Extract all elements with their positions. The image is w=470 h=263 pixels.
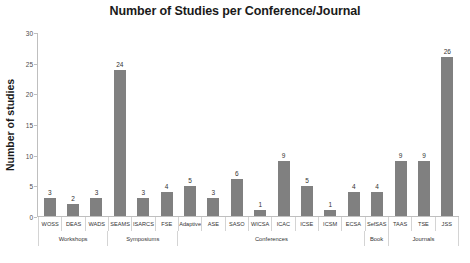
bar-value-label: 3 — [132, 189, 155, 197]
bar-series: 32324345361951449926 — [38, 33, 459, 216]
bar-slot: 4 — [365, 33, 388, 216]
bar[interactable] — [90, 198, 102, 216]
bar-value-label: 5 — [295, 177, 318, 185]
x-axis-item-label: SASO — [226, 217, 249, 231]
bar-value-label: 4 — [365, 183, 388, 191]
bar-slot: 1 — [249, 33, 272, 216]
bar-slot: 3 — [85, 33, 108, 216]
bar[interactable] — [184, 186, 196, 217]
x-axis-group-labels: WorkshopsSymposiumsConferencesBookJourna… — [38, 231, 459, 246]
x-axis-group-label: Symposiums — [108, 231, 178, 246]
bar-value-label: 4 — [342, 183, 365, 191]
bar[interactable] — [231, 179, 243, 216]
bar-slot: 9 — [389, 33, 412, 216]
bar-value-label: 3 — [202, 189, 225, 197]
y-axis-tick-label: 20 — [13, 91, 33, 98]
y-axis-tick-label: 30 — [13, 30, 33, 37]
x-axis-item-label: Adaptive — [179, 217, 202, 231]
bar-slot: 5 — [178, 33, 201, 216]
bar-slot: 3 — [202, 33, 225, 216]
y-axis-tick-mark — [34, 217, 37, 218]
x-axis-item-label: ECSA — [342, 217, 365, 231]
bar[interactable] — [207, 198, 219, 216]
bar[interactable] — [44, 198, 56, 216]
x-axis-item-label: WICSA — [249, 217, 272, 231]
bar[interactable] — [301, 186, 313, 217]
x-axis-item-label: TAAS — [389, 217, 412, 231]
bar-value-label: 9 — [412, 152, 435, 160]
bar-slot: 9 — [412, 33, 435, 216]
bar-slot: 3 — [132, 33, 155, 216]
bar-value-label: 5 — [178, 177, 201, 185]
bar-value-label: 4 — [155, 183, 178, 191]
bar[interactable] — [254, 210, 266, 216]
y-axis-tick-label: 25 — [13, 60, 33, 67]
x-axis-item-label: ASE — [202, 217, 225, 231]
x-axis-item-label: FSE — [156, 217, 179, 231]
y-axis-tick-label: 0 — [13, 214, 33, 221]
bar-value-label: 6 — [225, 170, 248, 178]
bar-slot: 2 — [61, 33, 84, 216]
bar[interactable] — [67, 204, 79, 216]
x-axis-item-label: WOSS — [38, 217, 62, 231]
bar-value-label: 26 — [436, 48, 459, 56]
bar-slot: 24 — [108, 33, 131, 216]
bar-value-label: 3 — [38, 189, 61, 197]
y-axis-tick-label: 10 — [13, 152, 33, 159]
bar-value-label: 9 — [389, 152, 412, 160]
y-axis-tick-mark — [34, 33, 37, 34]
bar[interactable] — [114, 70, 126, 216]
x-axis-item-label: TSE — [412, 217, 435, 231]
bar-slot: 9 — [272, 33, 295, 216]
y-axis-tick-label: 5 — [13, 183, 33, 190]
bar-value-label: 2 — [61, 195, 84, 203]
chart-title: Number of Studies per Conference/Journal — [0, 4, 470, 18]
bar-slot: 6 — [225, 33, 248, 216]
x-axis-item-label: JSS — [436, 217, 459, 231]
x-axis-item-label: ICAC — [272, 217, 295, 231]
bar[interactable] — [441, 57, 453, 216]
x-axis-item-label: SefSAS — [366, 217, 389, 231]
x-axis-item-label: ICSE — [296, 217, 319, 231]
bar-slot: 5 — [295, 33, 318, 216]
bar-value-label: 1 — [319, 201, 342, 209]
y-axis-tick-mark — [34, 94, 37, 95]
x-axis-group-label: Book — [365, 231, 388, 246]
bar[interactable] — [348, 192, 360, 216]
bar-slot: 1 — [319, 33, 342, 216]
bar-value-label: 24 — [108, 61, 131, 69]
bar-chart-figure: Number of Studies per Conference/Journal… — [0, 0, 470, 263]
x-axis-item-label: ICSM — [319, 217, 342, 231]
x-axis-group-label: Journals — [389, 231, 459, 246]
bar-slot: 3 — [38, 33, 61, 216]
y-axis-tick-mark — [34, 64, 37, 65]
bar-slot: 4 — [155, 33, 178, 216]
y-axis-tick-label: 15 — [13, 122, 33, 129]
bar[interactable] — [324, 210, 336, 216]
bar-slot: 26 — [436, 33, 459, 216]
bar[interactable] — [371, 192, 383, 216]
x-axis-item-label: SEAMS — [109, 217, 132, 231]
bar-value-label: 3 — [85, 189, 108, 197]
x-axis-item-label: ISARCS — [132, 217, 155, 231]
bar[interactable] — [418, 161, 430, 216]
x-axis-group-label: Conferences — [178, 231, 365, 246]
plot-area: 051015202530 32324345361951449926 — [37, 33, 459, 217]
bar[interactable] — [137, 198, 149, 216]
bar[interactable] — [278, 161, 290, 216]
x-axis-item-label: WADS — [86, 217, 109, 231]
bar-value-label: 1 — [249, 201, 272, 209]
y-axis-tick-mark — [34, 156, 37, 157]
bar-slot: 4 — [342, 33, 365, 216]
x-axis-item-labels: WOSSDEASWADSSEAMSISARCSFSEAdaptiveASESAS… — [38, 217, 459, 231]
bar-value-label: 9 — [272, 152, 295, 160]
bar[interactable] — [161, 192, 173, 216]
y-axis-tick-mark — [34, 186, 37, 187]
x-axis-item-label: DEAS — [62, 217, 85, 231]
y-axis-tick-mark — [34, 125, 37, 126]
x-axis-group-label: Workshops — [38, 231, 108, 246]
bar[interactable] — [395, 161, 407, 216]
